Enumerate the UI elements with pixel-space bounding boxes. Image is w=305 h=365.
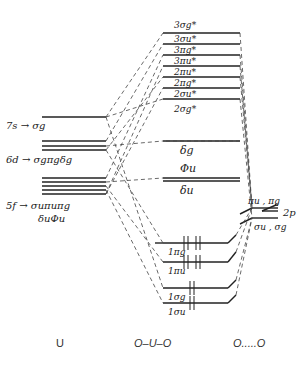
u-5f-label: 5f → σuπuπg [6,201,70,211]
column-label-oo: O.....O [233,337,265,349]
u-5f-label-2: δuΦu [38,214,65,224]
mo-label-2sg: 2σg* [174,104,196,114]
o-2p-label: 2p [283,208,296,218]
column-label-u: U [56,337,64,349]
mo-label-3su: 3σu* [174,34,196,44]
u-6d-label: 6d → σgπgδg [6,155,72,165]
column-label-ouo: O–U–O [134,337,171,349]
mo-label-1pu: 1πu [168,266,185,276]
mo-label-2pu: 2πu* [174,67,196,77]
mo-label-3sg: 3σg* [174,20,196,30]
mo-label-2pg: 2πg* [174,78,196,88]
mo-label-1su: 1σu [168,307,186,317]
mo-label-phiu: Φu [180,164,196,174]
mo-diagram-lines [0,0,305,365]
o-pi-label: πu , πg [248,196,280,206]
mo-label-1sg: 1σg [168,292,186,302]
o-sigma-label: σu , σg [254,222,286,232]
u-7s-label: 7s → σg [6,121,45,131]
mo-label-du: δu [180,186,194,196]
mo-label-3pu: 3πu* [174,56,196,66]
mo-label-2su: 2σu* [174,89,196,99]
mo-label-dg: δg [180,146,194,156]
mo-label-1pg: 1πg [168,247,185,257]
mo-label-3pg: 3πg* [174,45,196,55]
